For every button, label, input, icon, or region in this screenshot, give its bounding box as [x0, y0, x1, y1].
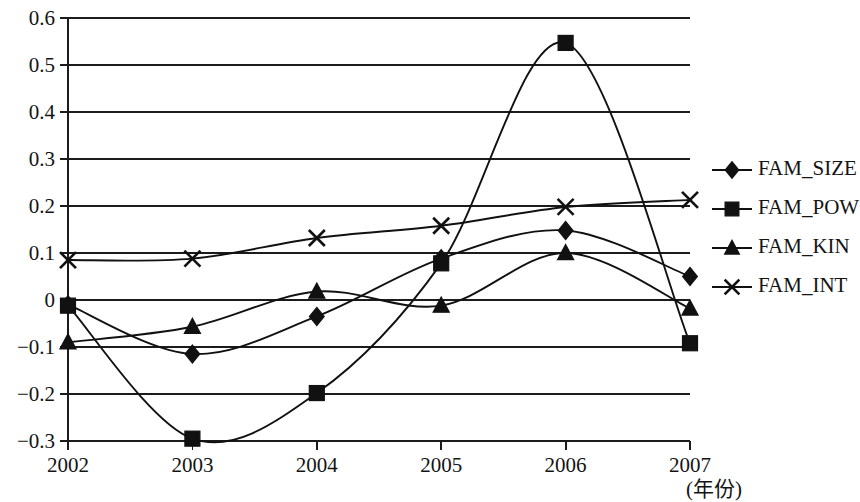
- y-tick-label: 0.2: [29, 194, 55, 218]
- marker-square: [434, 256, 449, 271]
- x-tick-label: 2002: [47, 453, 89, 477]
- series-line: [68, 230, 690, 354]
- line-chart: 0.60.50.40.30.20.10−0.1−0.2−0.3 20022003…: [0, 0, 860, 502]
- legend-label: FAM_INT: [758, 273, 848, 297]
- series-fam_int: [60, 192, 698, 268]
- legend-item-fam_int[interactable]: FAM_INT: [712, 273, 848, 297]
- legend: FAM_SIZEFAM_POWFAM_KINFAM_INT: [712, 156, 859, 297]
- y-tick-label: 0.1: [29, 241, 55, 265]
- x-tick-labels: 200220032004200520062007: [47, 453, 711, 477]
- y-tick-label: 0.6: [29, 6, 55, 30]
- y-tick-label: −0.3: [17, 429, 55, 453]
- chart-canvas: 0.60.50.40.30.20.10−0.1−0.2−0.3 20022003…: [0, 0, 860, 502]
- y-tick-label: 0.3: [29, 147, 55, 171]
- marker-triangle: [558, 245, 574, 260]
- y-tick-labels: 0.60.50.40.30.20.10−0.1−0.2−0.3: [17, 6, 56, 453]
- legend-label: FAM_SIZE: [758, 156, 857, 180]
- series-line: [68, 253, 690, 342]
- marker-diamond: [309, 307, 324, 325]
- x-tick-label: 2004: [296, 453, 339, 477]
- series-fam_size: [61, 221, 698, 363]
- marker-diamond: [683, 268, 698, 286]
- series-group: [60, 35, 698, 446]
- marker-square: [725, 202, 739, 216]
- y-tick-label: −0.2: [17, 382, 55, 406]
- y-tick-label: 0.5: [29, 53, 55, 77]
- legend-item-fam_size[interactable]: FAM_SIZE: [712, 156, 857, 180]
- x-tick-label: 2003: [171, 453, 213, 477]
- legend-item-fam_kin[interactable]: FAM_KIN: [712, 234, 850, 258]
- y-tick-label: −0.1: [17, 335, 55, 359]
- legend-item-fam_pow[interactable]: FAM_POW: [712, 195, 859, 219]
- x-tick-label: 2006: [545, 453, 587, 477]
- legend-label: FAM_KIN: [758, 234, 850, 258]
- series-fam_pow: [61, 35, 698, 446]
- tickmarks: [60, 18, 690, 450]
- marker-diamond: [558, 221, 573, 239]
- series-line: [68, 42, 690, 442]
- marker-square: [61, 298, 76, 313]
- x-tick-label: 2005: [420, 453, 462, 477]
- x-tick-label: 2007: [669, 453, 711, 477]
- marker-square: [309, 386, 324, 401]
- y-tick-label: 0: [45, 288, 56, 312]
- y-tick-label: 0.4: [29, 100, 56, 124]
- x-axis-caption: (年份): [686, 477, 742, 501]
- marker-diamond: [725, 162, 739, 179]
- series-line: [68, 200, 690, 261]
- legend-label: FAM_POW: [758, 195, 859, 219]
- marker-square: [558, 35, 573, 50]
- marker-triangle: [682, 300, 698, 315]
- marker-square: [683, 336, 698, 351]
- marker-square: [185, 431, 200, 446]
